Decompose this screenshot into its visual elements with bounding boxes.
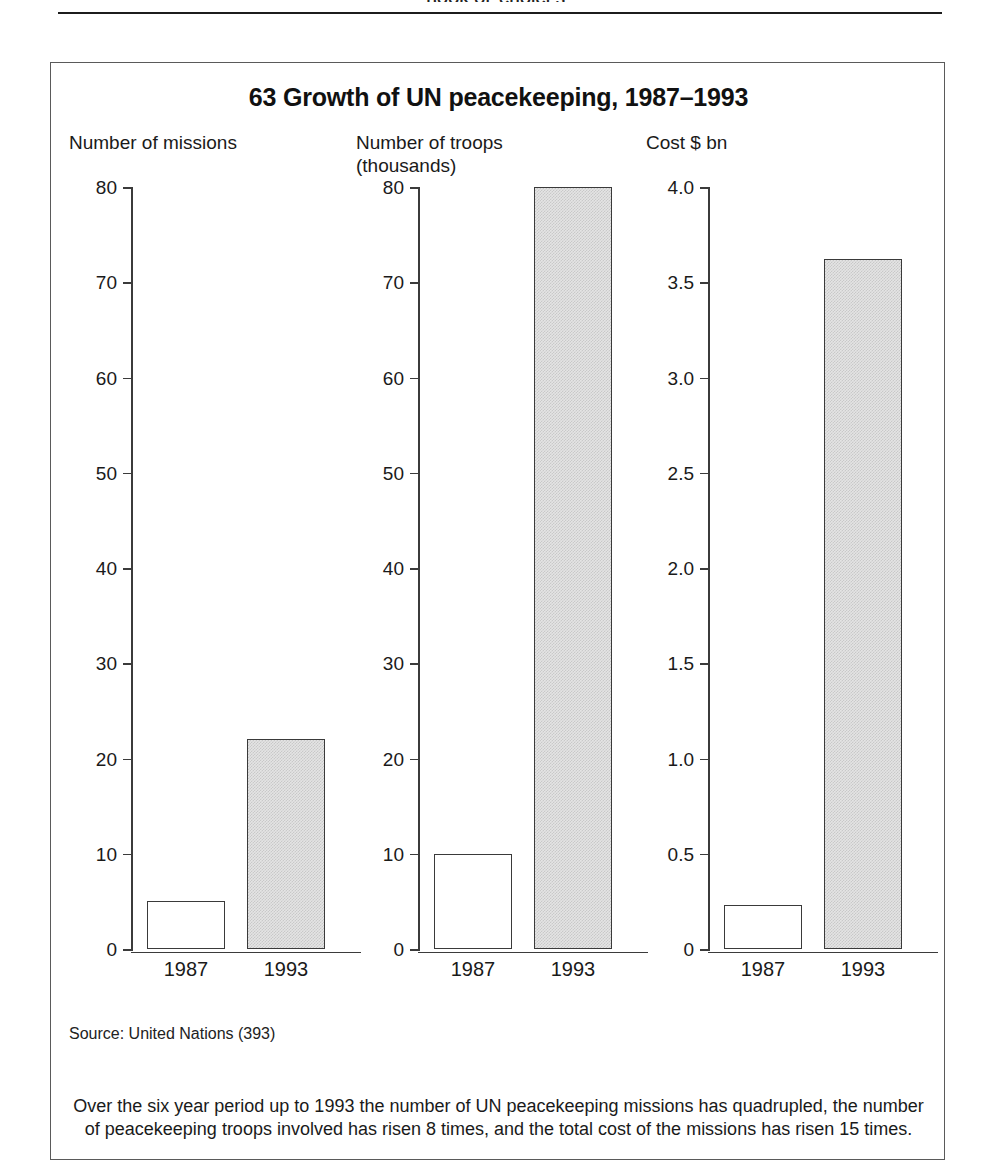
panel-heading: Cost $ bn bbox=[646, 131, 727, 154]
y-axis-tick bbox=[410, 854, 419, 856]
bar-1987 bbox=[147, 901, 225, 949]
y-axis-tick-label: 30 bbox=[356, 653, 404, 675]
y-axis-tick-label: 1.5 bbox=[646, 653, 694, 675]
y-axis-tick bbox=[410, 759, 419, 761]
x-axis-category-label: 1993 bbox=[233, 958, 339, 981]
y-axis-tick bbox=[700, 568, 709, 570]
header-rule bbox=[58, 12, 942, 14]
y-axis-tick-label: 20 bbox=[69, 749, 117, 771]
y-axis-tick bbox=[410, 187, 419, 189]
y-axis-tick-label: 0.5 bbox=[646, 844, 694, 866]
y-axis-tick bbox=[700, 282, 709, 284]
y-axis-tick bbox=[123, 949, 132, 951]
running-header-text: BOOK OF CHOICES bbox=[0, 0, 992, 2]
bar-1993 bbox=[534, 187, 612, 949]
bar-1987 bbox=[724, 905, 802, 949]
chart-panel-3: Cost $ bn00.51.01.52.02.53.03.54.0198719… bbox=[646, 131, 936, 991]
y-axis-tick bbox=[123, 282, 132, 284]
y-axis-tick-label: 3.0 bbox=[646, 368, 694, 390]
x-axis-category-label: 1993 bbox=[810, 958, 916, 981]
x-axis-line bbox=[708, 952, 938, 954]
y-axis-tick bbox=[410, 663, 419, 665]
chart-panels-container: Number of missions0102030405060708019871… bbox=[51, 131, 946, 991]
y-axis-tick-label: 2.5 bbox=[646, 463, 694, 485]
y-axis-tick-label: 4.0 bbox=[646, 177, 694, 199]
bar-1987 bbox=[434, 854, 512, 949]
y-axis-tick-label: 0 bbox=[356, 939, 404, 961]
x-axis-category-label: 1987 bbox=[133, 958, 239, 981]
x-axis-line bbox=[131, 952, 361, 954]
source-line: Source: United Nations (393) bbox=[69, 1025, 275, 1043]
bar-1993 bbox=[824, 259, 902, 949]
plot-area: 00.51.01.52.02.53.03.54.019871993 bbox=[646, 187, 936, 977]
y-axis-tick-label: 30 bbox=[69, 653, 117, 675]
y-axis-tick bbox=[700, 759, 709, 761]
y-axis-tick-label: 1.0 bbox=[646, 749, 694, 771]
x-axis-category-label: 1987 bbox=[710, 958, 816, 981]
y-axis-tick bbox=[123, 568, 132, 570]
y-axis-tick bbox=[700, 854, 709, 856]
y-axis-tick-label: 0 bbox=[646, 939, 694, 961]
y-axis-tick-label: 40 bbox=[69, 558, 117, 580]
y-axis-tick-label: 2.0 bbox=[646, 558, 694, 580]
y-axis-tick-label: 60 bbox=[69, 368, 117, 390]
x-axis-line bbox=[418, 952, 648, 954]
y-axis-tick bbox=[700, 949, 709, 951]
y-axis-tick bbox=[123, 759, 132, 761]
y-axis-tick-label: 70 bbox=[356, 272, 404, 294]
panel-heading: Number of troops (thousands) bbox=[356, 131, 503, 177]
bar-1993 bbox=[247, 739, 325, 949]
y-axis-tick-label: 80 bbox=[356, 177, 404, 199]
chart-panel-2: Number of troops (thousands)010203040506… bbox=[356, 131, 646, 991]
y-axis-tick-label: 50 bbox=[69, 463, 117, 485]
y-axis-tick bbox=[410, 473, 419, 475]
y-axis-tick bbox=[123, 187, 132, 189]
plot-area: 0102030405060708019871993 bbox=[356, 187, 646, 977]
y-axis-tick-label: 70 bbox=[69, 272, 117, 294]
y-axis-tick bbox=[410, 949, 419, 951]
panel-heading: Number of missions bbox=[69, 131, 237, 154]
y-axis-tick-label: 60 bbox=[356, 368, 404, 390]
y-axis-tick bbox=[123, 854, 132, 856]
plot-area: 0102030405060708019871993 bbox=[69, 187, 359, 977]
y-axis-tick bbox=[123, 663, 132, 665]
y-axis-tick bbox=[410, 282, 419, 284]
y-axis-tick-label: 0 bbox=[69, 939, 117, 961]
y-axis-tick bbox=[410, 568, 419, 570]
y-axis-tick-label: 40 bbox=[356, 558, 404, 580]
x-axis-category-label: 1987 bbox=[420, 958, 526, 981]
y-axis-tick-label: 50 bbox=[356, 463, 404, 485]
y-axis-tick-label: 3.5 bbox=[646, 272, 694, 294]
x-axis-category-label: 1993 bbox=[520, 958, 626, 981]
y-axis-tick bbox=[123, 378, 132, 380]
y-axis-tick bbox=[123, 473, 132, 475]
y-axis-tick-label: 10 bbox=[356, 844, 404, 866]
chart-panel-1: Number of missions0102030405060708019871… bbox=[69, 131, 359, 991]
y-axis-tick bbox=[700, 663, 709, 665]
y-axis-tick-label: 20 bbox=[356, 749, 404, 771]
y-axis-tick-label: 10 bbox=[69, 844, 117, 866]
y-axis-tick-label: 80 bbox=[69, 177, 117, 199]
figure-title: 63 Growth of UN peacekeeping, 1987–1993 bbox=[51, 83, 946, 112]
y-axis-tick bbox=[410, 378, 419, 380]
y-axis-tick bbox=[700, 187, 709, 189]
figure-caption: Over the six year period up to 1993 the … bbox=[69, 1095, 928, 1141]
figure-frame: 63 Growth of UN peacekeeping, 1987–1993 … bbox=[50, 62, 945, 1160]
running-header-strip: BOOK OF CHOICES bbox=[0, 0, 992, 30]
y-axis-tick bbox=[700, 378, 709, 380]
y-axis-tick bbox=[700, 473, 709, 475]
